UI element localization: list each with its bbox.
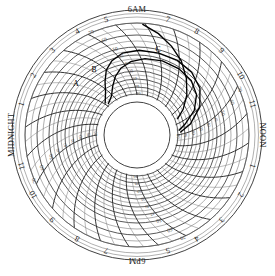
chart-canvas: 7060504540353025207060504540353025207060… — [0, 0, 275, 276]
value-tick-20: 20 — [93, 131, 98, 136]
value-tick-60: 60 — [166, 227, 173, 234]
value-tick-50: 50 — [112, 45, 119, 52]
hour-label-5: 5 — [165, 246, 171, 256]
hour-label-9: 9 — [48, 215, 57, 224]
hour-label-MIDNIGHT: MIDNIGHT — [7, 113, 16, 157]
hour-label-6AM: 6AM — [128, 5, 147, 14]
value-tick-50: 50 — [47, 153, 54, 160]
trace-annotation-C: C — [155, 45, 160, 54]
value-tick-50: 50 — [155, 218, 162, 225]
hour-label-6PM: 6PM — [128, 256, 145, 265]
value-tick-20: 20 — [176, 134, 181, 139]
value-tick-60: 60 — [229, 99, 236, 106]
value-tick-25: 25 — [183, 133, 188, 138]
value-tick-30: 30 — [136, 189, 141, 194]
hour-label-9: 9 — [217, 46, 226, 55]
circular-chart-recorder: 7060504540353025207060504540353025207060… — [0, 0, 275, 276]
hour-label-NOON: NOON — [258, 123, 267, 148]
hour-label-11: 11 — [247, 99, 258, 109]
hour-label-7: 7 — [103, 246, 109, 256]
value-tick-30: 30 — [132, 76, 137, 81]
hour-label-7: 7 — [165, 15, 171, 25]
time-line-22 — [74, 155, 102, 228]
value-tick-20: 20 — [133, 174, 138, 179]
hour-label-3: 3 — [48, 46, 57, 55]
value-tick-20: 20 — [136, 91, 141, 96]
hour-label-1: 1 — [17, 101, 27, 107]
hour-label-5: 5 — [103, 15, 109, 25]
value-tick-25: 25 — [86, 132, 91, 137]
hour-label-1: 1 — [248, 163, 258, 169]
value-tick-25: 25 — [134, 181, 139, 186]
value-tick-30: 30 — [191, 130, 196, 135]
hour-label-11: 11 — [16, 161, 27, 171]
trace-annotation-B: B — [91, 65, 96, 74]
value-tick-30: 30 — [78, 134, 83, 139]
time-line-16 — [157, 170, 230, 198]
hour-label-3: 3 — [217, 215, 226, 224]
chart-hub — [104, 102, 170, 168]
value-tick-25: 25 — [135, 84, 140, 89]
hub-circle — [104, 102, 170, 168]
value-tick-50: 50 — [220, 110, 227, 117]
trace-annotation-A: A — [73, 79, 79, 88]
